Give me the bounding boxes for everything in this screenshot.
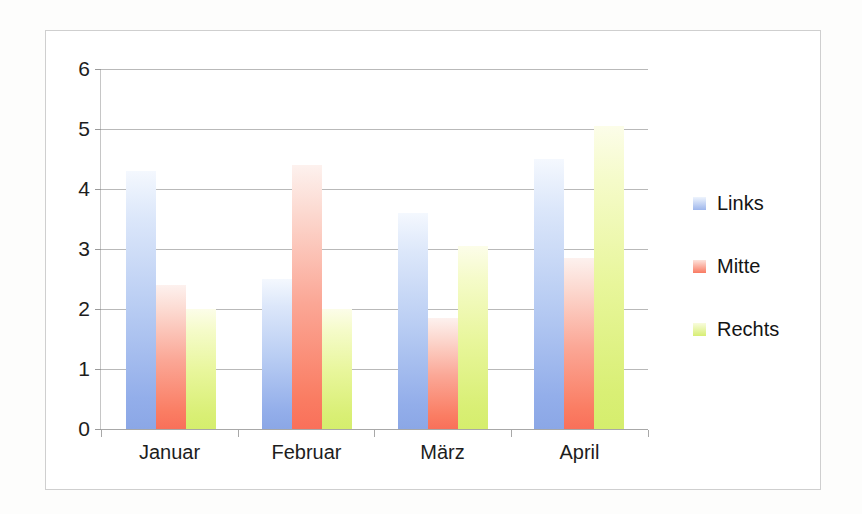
bar-april-links[interactable] bbox=[534, 159, 564, 429]
x-tick-1 bbox=[238, 430, 239, 437]
gridline-4 bbox=[101, 189, 648, 190]
legend-item-rechts[interactable]: Rechts bbox=[693, 318, 813, 340]
x-tick-2 bbox=[374, 430, 375, 437]
legend-swatch-mitte-icon bbox=[693, 260, 706, 273]
y-axis-labels: 6 5 4 3 2 1 0 bbox=[46, 0, 90, 460]
chart-legend: Links Mitte Rechts bbox=[693, 192, 813, 340]
legend-item-links[interactable]: Links bbox=[693, 192, 813, 214]
y-axis-label-3: 3 bbox=[50, 238, 90, 259]
gridline-5 bbox=[101, 129, 648, 130]
x-axis-label-februar: Februar bbox=[238, 441, 375, 463]
legend-swatch-rechts-icon bbox=[693, 323, 706, 336]
bar-maerz-links[interactable] bbox=[398, 213, 428, 429]
chart-page: 6 5 4 3 2 1 0 bbox=[0, 0, 862, 514]
legend-swatch-links-icon bbox=[693, 197, 706, 210]
bar-januar-mitte[interactable] bbox=[156, 285, 186, 429]
bar-februar-rechts[interactable] bbox=[322, 309, 352, 429]
x-tick-end bbox=[648, 430, 649, 437]
x-axis-label-maerz: März bbox=[374, 441, 511, 463]
x-tick-3 bbox=[511, 430, 512, 437]
bar-april-mitte[interactable] bbox=[564, 258, 594, 429]
x-axis-label-januar: Januar bbox=[101, 441, 238, 463]
y-axis-label-2: 2 bbox=[50, 298, 90, 319]
legend-label-links: Links bbox=[717, 193, 764, 213]
legend-item-mitte[interactable]: Mitte bbox=[693, 255, 813, 277]
y-axis-label-1: 1 bbox=[50, 358, 90, 379]
legend-label-mitte: Mitte bbox=[717, 256, 760, 276]
y-axis-label-4: 4 bbox=[50, 178, 90, 199]
bar-februar-links[interactable] bbox=[262, 279, 292, 429]
bar-februar-mitte[interactable] bbox=[292, 165, 322, 429]
gridline-6 bbox=[101, 69, 648, 70]
y-axis-label-5: 5 bbox=[50, 118, 90, 139]
bar-maerz-mitte[interactable] bbox=[428, 318, 458, 429]
legend-label-rechts: Rechts bbox=[717, 319, 779, 339]
y-axis-label-0: 0 bbox=[50, 418, 90, 439]
gridline-3 bbox=[101, 249, 648, 250]
bar-januar-rechts[interactable] bbox=[186, 309, 216, 429]
bar-maerz-rechts[interactable] bbox=[458, 246, 488, 429]
y-axis-label-6: 6 bbox=[50, 58, 90, 79]
plot-area bbox=[101, 69, 648, 429]
bar-april-rechts[interactable] bbox=[594, 126, 624, 429]
x-tick-start bbox=[101, 430, 102, 437]
x-axis-label-april: April bbox=[511, 441, 648, 463]
bar-januar-links[interactable] bbox=[126, 171, 156, 429]
